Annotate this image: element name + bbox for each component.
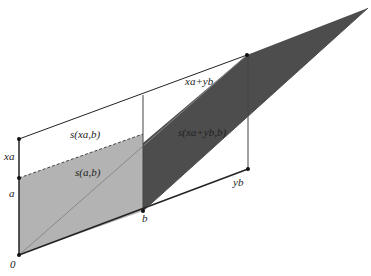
label-origin: 0 (10, 258, 16, 270)
label-s-xa-b: s(xa,b) (70, 128, 101, 141)
point-origin (17, 253, 21, 257)
point-yb (246, 167, 250, 171)
point-xa-yb (245, 53, 249, 57)
label-b: b (142, 212, 148, 224)
label-xa: xa (3, 150, 15, 162)
label-xa-yb: xa+yb (184, 75, 214, 87)
long-edge (143, 8, 368, 211)
label-a: a (9, 187, 15, 199)
label-s-xa-yb-b: s(xa+yb,b) (178, 126, 226, 139)
label-s-a-b: s(a,b) (75, 166, 101, 179)
region-s-a-b (19, 134, 143, 255)
diagram: 0 a xa b yb xa+yb s(xa,b) s(a,b) s(xa+yb… (0, 0, 371, 276)
point-xa (17, 137, 21, 141)
point-a (17, 176, 21, 180)
label-yb: yb (232, 176, 244, 188)
